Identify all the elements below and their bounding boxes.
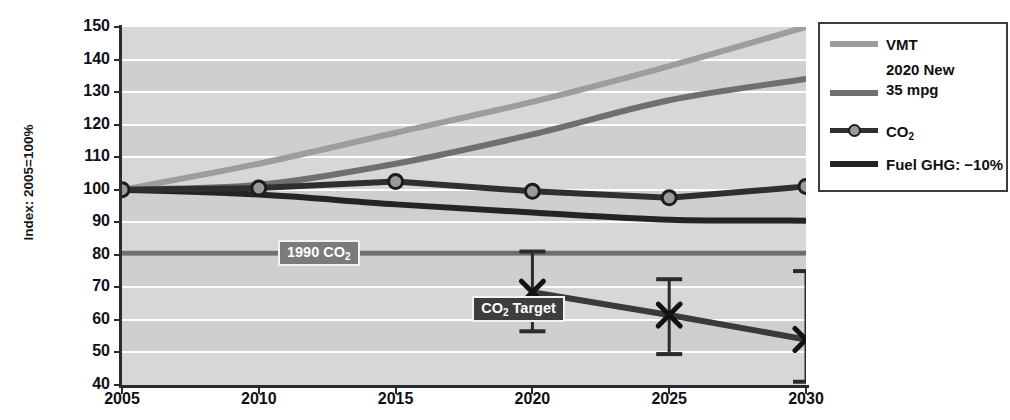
plot-area: 1990 CO2CO2 Target [122,27,806,385]
y-tick-label: 100 [58,180,110,198]
co2-data-point-marker [252,181,266,195]
series-layer [122,27,806,385]
legend-swatch-line-icon [830,33,878,55]
co2-data-point-marker [799,179,806,193]
legend-box: VMT 2020 New 35 mpg CO2 Fuel GHG: −10% [818,22,1008,192]
legend-label-co2: CO2 [886,123,914,140]
y-tick-mark [114,59,120,61]
legend-item-35mpg[interactable]: 2020 New 35 mpg [886,60,954,101]
legend-item-fuel-ghg[interactable]: Fuel GHG: −10% [830,152,1003,176]
y-tick-mark [114,384,120,386]
y-tick-label: 70 [58,277,110,295]
y-tick-mark [114,319,120,321]
x-axis-line [119,385,809,388]
y-tick-mark [114,221,120,223]
y-axis-line [119,25,122,387]
legend-swatch-fuel-ghg-icon [830,153,878,175]
legend-swatch-35mpg-icon [830,82,878,104]
co2-data-point-marker [525,184,539,198]
y-tick-label: 80 [58,245,110,263]
y-tick-label: 150 [58,17,110,35]
co2-data-point-marker [122,183,129,197]
y-axis-title: Index: 2005=100% [21,63,36,303]
legend-swatch-co2-circle-icon [830,120,878,142]
legend-item-vmt[interactable]: VMT [830,32,918,56]
legend-label-fuel-ghg: Fuel GHG: −10% [886,156,1003,173]
x-tick-mark [805,388,807,394]
legend-label-vmt: VMT [886,36,918,53]
y-tick-mark [114,156,120,158]
legend-label-35-mpg: 35 mpg [886,80,954,100]
co2-target-label: CO2 Target [472,296,565,322]
co2-data-point-marker [662,191,676,205]
y-tick-mark [114,26,120,28]
y-tick-label: 120 [58,115,110,133]
legend-item-co2[interactable]: CO2 [830,119,914,143]
y-tick-mark [114,91,120,93]
series-line-vmt [122,27,806,190]
y-tick-mark [114,124,120,126]
1990-co2-label: 1990 CO2 [278,240,360,266]
y-tick-mark [114,286,120,288]
x-tick-mark [395,388,397,394]
y-tick-mark [114,189,120,191]
co2-data-point-marker [389,175,403,189]
y-tick-label: 60 [58,310,110,328]
y-tick-mark [114,254,120,256]
y-tick-label: 140 [58,50,110,68]
x-tick-mark [531,388,533,394]
legend-label-2020-new: 2020 New [886,60,954,80]
y-tick-mark [114,351,120,353]
x-tick-mark [668,388,670,394]
y-tick-label: 130 [58,82,110,100]
chart-container: Index: 2005=100% 1990 CO2CO2 Target 1501… [0,0,1010,420]
y-tick-label: 110 [58,147,110,165]
y-tick-label: 50 [58,342,110,360]
x-tick-mark [258,388,260,394]
y-tick-label: 90 [58,212,110,230]
x-tick-mark [121,388,123,394]
cropped-title [0,0,1010,2]
